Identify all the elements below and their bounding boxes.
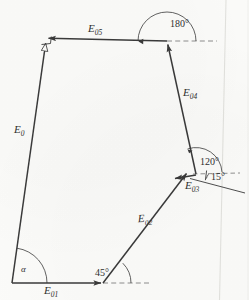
vector-E0 — [12, 44, 46, 284]
label-E04: E04 — [183, 87, 197, 101]
angle-label-45: 45° — [95, 268, 109, 278]
label-E0: E0 — [14, 124, 24, 138]
angle-arc-15 — [206, 174, 208, 178]
angle-label-120: 120° — [200, 157, 219, 167]
angle-label-alpha: α — [21, 265, 26, 274]
vector-E02 — [103, 174, 187, 284]
vector-E04 — [168, 45, 196, 175]
vector-E05 — [49, 38, 168, 41]
label-E02: E02 — [138, 213, 153, 227]
angle-label-15: 15° — [211, 172, 225, 182]
scan-edge-line — [220, 0, 227, 300]
angle-arc-45 — [123, 263, 131, 283]
vector-polygon-figure — [0, 0, 249, 300]
label-E05: E05 — [88, 23, 102, 37]
angle-label-180: 180° — [170, 19, 189, 29]
label-E03: E03 — [185, 180, 199, 194]
label-E01: E01 — [44, 285, 58, 299]
angle-tick-15 — [205, 171, 206, 181]
